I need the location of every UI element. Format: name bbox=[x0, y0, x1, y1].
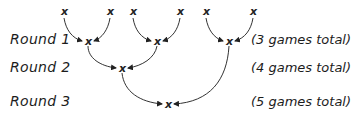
x-marker: x bbox=[202, 5, 211, 18]
x-marker: x bbox=[60, 5, 69, 18]
round-2-note: (4 games total) bbox=[251, 60, 351, 75]
round-3-label: Round 3 bbox=[10, 93, 70, 109]
x-marker: x bbox=[164, 98, 173, 111]
arrow bbox=[133, 18, 151, 41]
arrow bbox=[163, 18, 180, 41]
x-marker: x bbox=[176, 5, 185, 18]
x-marker: x bbox=[106, 5, 115, 18]
x-marker: x bbox=[129, 5, 138, 18]
round-3-note: (5 games total) bbox=[251, 94, 351, 109]
arrow bbox=[206, 18, 223, 41]
x-marker: x bbox=[84, 35, 93, 48]
round-1-note: (3 games total) bbox=[251, 32, 351, 47]
x-marker: x bbox=[225, 35, 234, 48]
x-marker: x bbox=[153, 35, 162, 48]
x-marker: x bbox=[118, 62, 127, 75]
round-2-label: Round 2 bbox=[10, 59, 70, 75]
arrow bbox=[94, 18, 110, 41]
x-marker: x bbox=[249, 5, 258, 18]
round-1-label: Round 1 bbox=[10, 31, 70, 47]
